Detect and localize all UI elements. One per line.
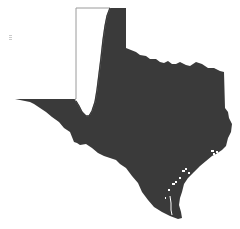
texas-map — [0, 0, 240, 229]
texas-map-svg — [0, 0, 240, 229]
faint-edge-mark — [9, 35, 12, 41]
texas-filled-region — [15, 8, 232, 219]
